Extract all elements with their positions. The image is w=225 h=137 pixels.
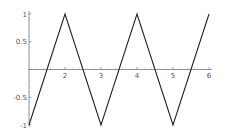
y-tick-label: 1: [23, 11, 27, 19]
triangle-wave-chart: 2345610.5-0.5-1: [0, 0, 225, 137]
x-tick-label: 3: [99, 72, 103, 80]
y-tick-label: -0.5: [13, 94, 27, 102]
axes: [29, 11, 212, 127]
y-tick-label: 0.5: [16, 38, 27, 46]
x-tick-label: 6: [207, 72, 212, 80]
tick-labels: 2345610.5-0.5-1: [13, 11, 211, 130]
y-tick-label: -1: [20, 122, 27, 130]
x-tick-label: 4: [135, 72, 140, 80]
x-tick-label: 5: [171, 72, 175, 80]
x-tick-label: 2: [63, 72, 67, 80]
